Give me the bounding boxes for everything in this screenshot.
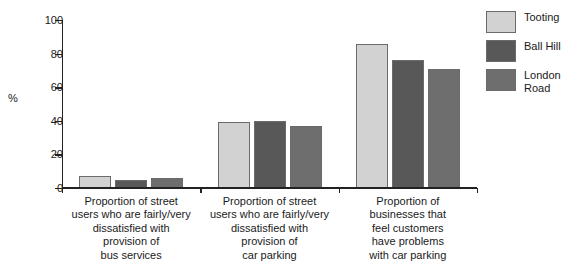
x-axis-group-label-line: provision of [191,235,347,248]
bar-chart: % 020406080100 Proportion of streetusers… [0,0,564,273]
x-axis-group-label-line: bus services [53,249,209,262]
x-axis-group-label: Proportion of streetusers who are fairly… [53,195,209,262]
bar [254,121,286,188]
x-axis-tick-mark [200,188,201,193]
y-axis-tick-label: 100 [37,14,63,26]
bar [290,126,322,188]
x-axis-group-label-line: with car parking [330,249,486,262]
legend-label: London Road [524,69,561,94]
x-axis-tick-mark [62,188,63,193]
x-axis-group-label: Proportion of streetusers who are fairly… [191,195,347,262]
legend-label: Ball Hill [524,40,561,53]
bar [218,122,250,188]
y-axis-title: % [8,92,18,104]
x-axis-group-label: Proportion ofbusinesses thatfeel custome… [330,195,486,262]
y-axis-tick-label: 60 [37,81,63,93]
legend-item: London Road [486,69,564,94]
x-axis-group-label-line: car parking [191,249,347,262]
y-axis-tick-label: 20 [37,148,63,160]
legend-label: Tooting [524,11,559,24]
x-axis-group-label-line: provision of [53,235,209,248]
legend-swatch [486,40,516,62]
plot-area [62,20,477,188]
legend-item: Ball Hill [486,40,564,62]
x-axis-group-label-line: users who are fairly/very [191,208,347,221]
x-axis-group-label-line: dissatisfied with [191,222,347,235]
bar [428,69,460,188]
x-axis-group-label-line: feel customers [330,222,486,235]
y-axis-tick-label: 0 [37,182,63,194]
x-axis-tick-mark [339,188,340,193]
x-axis-group-label-line: have problems [330,235,486,248]
x-axis-group-label-line: users who are fairly/very [53,208,209,221]
y-axis-tick-label: 80 [37,48,63,60]
x-axis-group-label-line: dissatisfied with [53,222,209,235]
legend: TootingBall HillLondon Road [486,11,564,101]
x-axis-group-label-line: Proportion of [330,195,486,208]
legend-swatch [486,69,516,91]
legend-item: Tooting [486,11,564,33]
legend-swatch [486,11,516,33]
x-axis-tick-mark [477,188,478,193]
x-axis-line [62,187,477,189]
x-axis-group-label-line: businesses that [330,208,486,221]
x-axis-group-label-line: Proportion of street [191,195,347,208]
bar [356,44,388,188]
x-axis-group-label-line: Proportion of street [53,195,209,208]
y-axis-tick-label: 40 [37,115,63,127]
bar [392,60,424,188]
